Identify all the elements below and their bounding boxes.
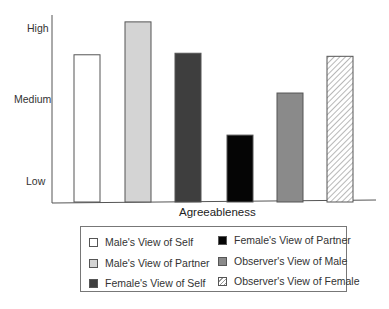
y-tick-low: Low bbox=[26, 175, 45, 187]
legend-swatch-icon bbox=[89, 279, 98, 288]
bar-chart bbox=[0, 0, 389, 225]
legend: Male's View of Self Male's View of Partn… bbox=[80, 226, 347, 292]
legend-item-male-self: Male's View of Self bbox=[89, 236, 193, 248]
bar-2 bbox=[125, 22, 151, 202]
bar-5 bbox=[277, 93, 303, 202]
legend-swatch-icon bbox=[218, 277, 227, 286]
legend-item-observer-female: Observer's View of Female bbox=[218, 275, 360, 287]
legend-item-observer-male: Observer's View of Male bbox=[218, 255, 347, 267]
bar-6 bbox=[327, 56, 353, 202]
legend-item-female-self: Female's View of Self bbox=[89, 277, 205, 289]
legend-item-male-partner: Male's View of Partner bbox=[89, 257, 210, 269]
legend-swatch-icon bbox=[218, 257, 227, 266]
bar-3 bbox=[175, 53, 201, 202]
legend-swatch-icon bbox=[89, 259, 98, 268]
legend-swatch-icon bbox=[218, 236, 227, 245]
bar-4 bbox=[227, 135, 253, 202]
legend-item-female-partner: Female's View of Partner bbox=[218, 234, 351, 246]
y-tick-medium: Medium bbox=[14, 93, 51, 105]
legend-swatch-icon bbox=[89, 238, 98, 247]
bar-1 bbox=[74, 55, 100, 202]
x-axis-label: Agreeableness bbox=[179, 206, 256, 218]
y-tick-high: High bbox=[27, 22, 49, 34]
